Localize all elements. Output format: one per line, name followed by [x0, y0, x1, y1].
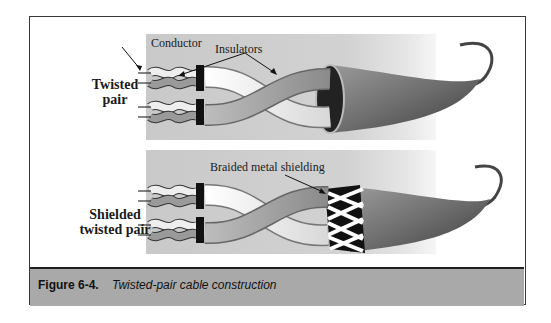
shielded-twisted-pair-label: Shielded twisted pair	[60, 207, 170, 237]
conductor-callout: Conductor	[151, 36, 202, 51]
twisted-pair-label-line2: pair	[70, 92, 160, 107]
twisted-pair-label-line1: Twisted	[70, 77, 160, 92]
braided-shielding-callout: Braided metal shielding	[210, 160, 325, 175]
shielded-label-line2: twisted pair	[60, 222, 170, 237]
figure-frame: Twisted pair Shielded twisted pair Condu…	[29, 16, 526, 305]
insulators-callout: Insulators	[215, 42, 262, 57]
twisted-pair-label: Twisted pair	[70, 77, 160, 107]
figure-number: Figure 6-4.	[38, 278, 99, 292]
shielded-label-line1: Shielded	[60, 207, 170, 222]
twisted-pair-cable-drawing	[122, 43, 492, 133]
figure-title: Twisted-pair cable construction	[112, 278, 277, 292]
shielded-twisted-pair-cable-drawing	[138, 166, 501, 253]
figure-caption-bar: Figure 6-4. Twisted-pair cable construct…	[30, 267, 524, 306]
